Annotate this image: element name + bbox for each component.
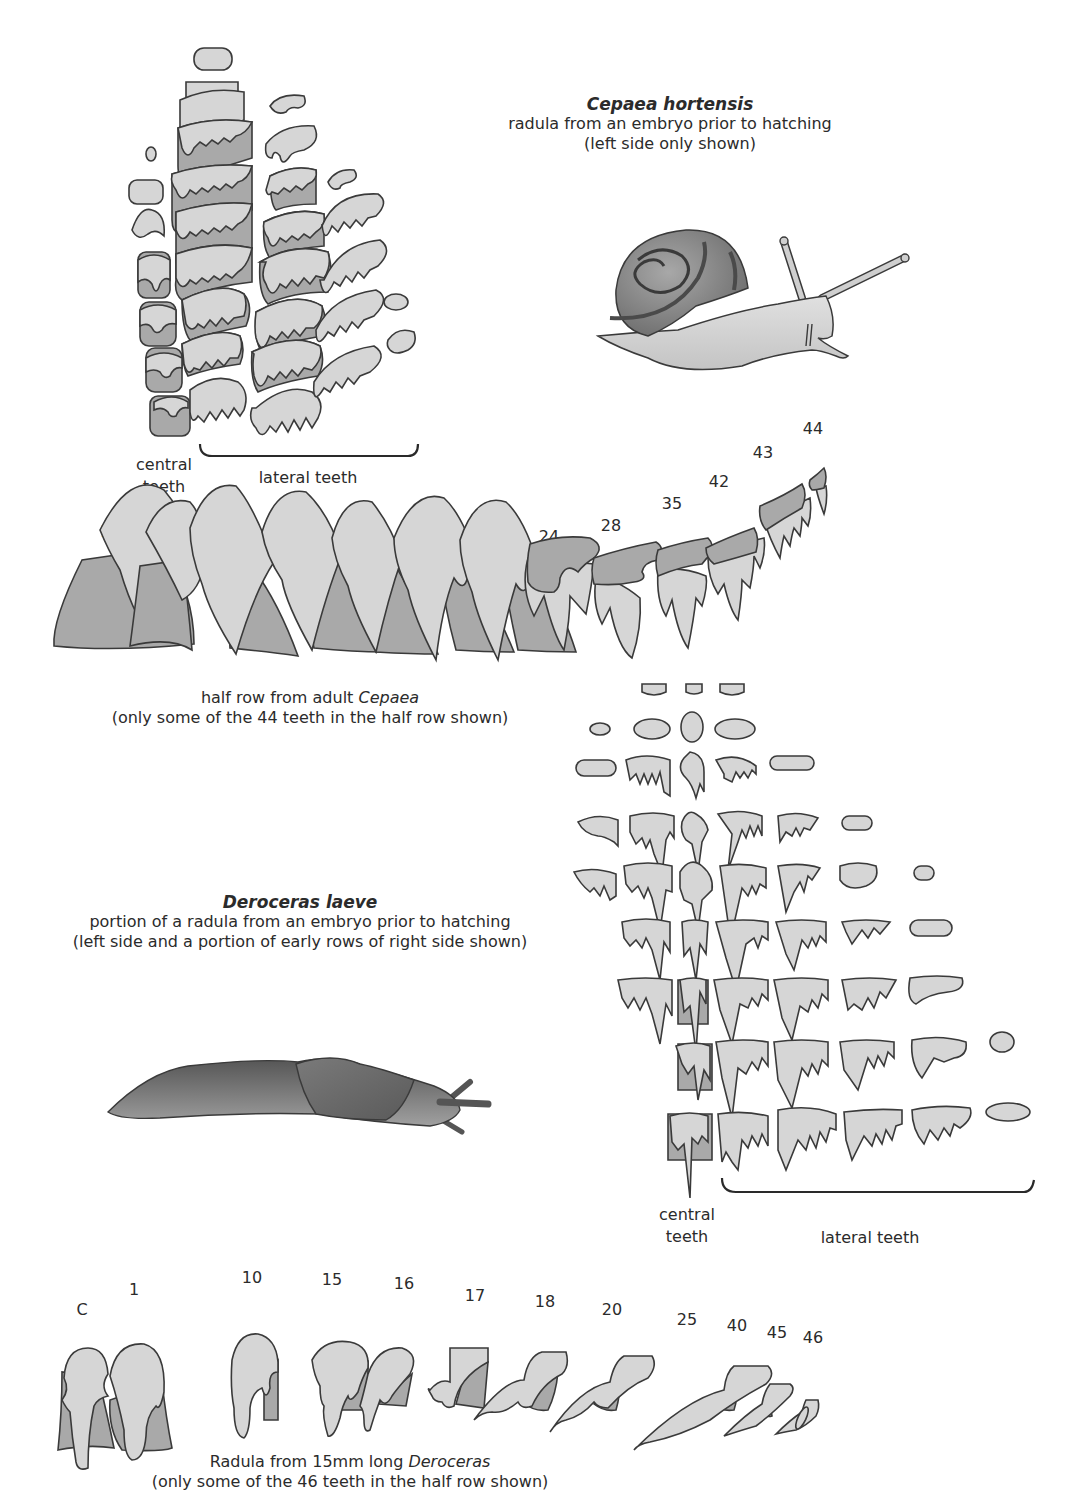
tooth-number: 1 bbox=[129, 1280, 139, 1299]
deroceras-lateral-brace bbox=[560, 680, 1040, 1180]
tooth-number: 10 bbox=[242, 1268, 262, 1287]
cepaea-subtitle-2: (left side only shown) bbox=[480, 134, 860, 154]
cepaea-lateral-brace bbox=[120, 40, 440, 440]
snail-illustration bbox=[570, 220, 950, 400]
tooth-number: 15 bbox=[322, 1270, 342, 1289]
deroceras-central-teeth-label: centralteeth bbox=[650, 1204, 724, 1248]
deroceras-lateral-teeth-label: lateral teeth bbox=[790, 1228, 950, 1248]
cepaea-subtitle-1: radula from an embryo prior to hatching bbox=[480, 114, 860, 134]
deroceras-adult-caption: Radula from 15mm long Deroceras (only so… bbox=[110, 1452, 590, 1492]
deroceras-heading: Deroceras laeve portion of a radula from… bbox=[60, 892, 540, 952]
cepaea-title: Cepaea hortensis bbox=[480, 94, 860, 114]
cepaea-adult-teeth-drawing bbox=[40, 440, 840, 620]
deroceras-subtitle-2: (left side and a portion of early rows o… bbox=[60, 932, 540, 952]
tooth-number: 16 bbox=[394, 1274, 414, 1293]
deroceras-title: Deroceras laeve bbox=[60, 892, 540, 912]
cepaea-embryo-radula bbox=[120, 40, 440, 440]
deroceras-embryo-radula bbox=[560, 680, 1040, 1180]
slug-illustration bbox=[90, 1030, 510, 1140]
cepaea-adult-caption: half row from adult Cepaea (only some of… bbox=[80, 688, 540, 728]
deroceras-adult-teeth-drawing bbox=[50, 1300, 850, 1470]
tooth-number: 44 bbox=[803, 419, 823, 438]
deroceras-subtitle-1: portion of a radula from an embryo prior… bbox=[60, 912, 540, 932]
cepaea-heading: Cepaea hortensis radula from an embryo p… bbox=[480, 94, 860, 154]
